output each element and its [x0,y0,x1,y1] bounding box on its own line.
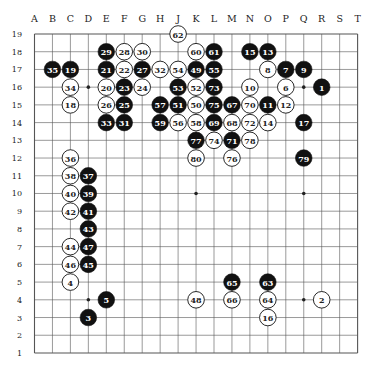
row-label: 2 [17,331,22,340]
row-label: 12 [12,154,22,163]
move-number: 3 [86,313,92,323]
white-stone: 60 [188,43,205,60]
move-number: 41 [83,207,94,217]
column-label: A [30,13,38,24]
move-number: 21 [101,65,112,75]
black-stone: 71 [224,132,241,149]
white-stone: 78 [242,132,259,149]
white-stone: 28 [116,43,133,60]
black-stone: 21 [98,61,115,78]
column-label: C [67,13,74,24]
move-number: 11 [262,100,273,110]
move-number: 49 [190,65,202,75]
move-number: 55 [208,65,219,75]
white-stone: 64 [260,292,277,309]
star-point [302,85,306,89]
move-number: 53 [173,83,185,93]
white-stone: 12 [278,97,295,114]
move-number: 13 [262,47,274,57]
column-label: D [85,13,93,24]
row-label: 11 [12,172,22,181]
white-stone: 16 [260,309,277,326]
white-stone: 8 [260,61,277,78]
column-label: F [121,13,128,24]
black-stone: 19 [62,61,79,78]
move-number: 50 [190,100,202,110]
move-number: 75 [208,100,219,110]
move-number: 31 [119,118,130,128]
move-number: 79 [298,154,310,164]
black-stone: 3 [80,309,97,326]
star-point [87,85,91,89]
move-number: 80 [190,154,202,164]
black-stone: 1 [313,79,330,96]
move-number: 32 [155,65,166,75]
star-point [302,192,306,196]
white-stone: 24 [134,79,151,96]
move-number: 70 [244,100,256,110]
move-number: 72 [244,118,255,128]
black-stone: 13 [260,43,277,60]
move-number: 47 [83,242,94,252]
white-stone: 46 [62,256,79,273]
black-stone: 69 [206,114,223,131]
white-stone: 42 [62,203,79,220]
move-number: 6 [283,83,289,93]
move-number: 20 [101,83,113,93]
move-number: 60 [190,47,202,57]
move-number: 22 [119,65,130,75]
white-stone: 4 [62,274,79,291]
move-number: 17 [298,118,309,128]
move-number: 18 [65,100,77,110]
column-label: L [211,13,218,24]
black-stone: 9 [295,61,312,78]
white-stone: 68 [224,114,241,131]
move-number: 56 [173,118,185,128]
move-number: 39 [83,189,95,199]
move-number: 25 [119,100,130,110]
white-stone: 76 [224,150,241,167]
move-number: 67 [226,100,237,110]
black-stone: 37 [80,167,97,184]
move-number: 8 [265,65,271,75]
white-stone: 62 [170,26,187,43]
black-stone: 29 [98,43,115,60]
black-stone: 15 [242,43,259,60]
white-stone: 22 [116,61,133,78]
column-label: G [138,13,146,24]
black-stone: 35 [44,61,61,78]
move-number: 23 [119,83,131,93]
white-stone: 30 [134,43,151,60]
white-stone: 36 [62,150,79,167]
black-stone: 41 [80,203,97,220]
star-point [194,192,198,196]
row-label: 17 [12,65,22,74]
black-stone: 77 [188,132,205,149]
move-number: 19 [65,65,77,75]
black-stone: 65 [224,274,241,291]
white-stone: 72 [242,114,259,131]
row-label: 6 [17,260,22,269]
move-number: 64 [262,295,274,305]
move-number: 44 [65,242,77,252]
black-stone: 55 [206,61,223,78]
white-stone: 20 [98,79,115,96]
black-stone: 73 [206,79,223,96]
row-label: 5 [17,278,22,287]
star-point [87,298,91,302]
move-number: 52 [190,83,201,93]
move-number: 71 [226,136,237,146]
column-label: M [227,13,237,24]
column-label: O [264,13,272,24]
move-number: 46 [65,260,77,270]
move-number: 2 [319,295,325,305]
move-number: 58 [190,118,202,128]
move-number: 68 [226,118,238,128]
white-stone: 18 [62,97,79,114]
row-label: 1 [17,349,22,358]
black-stone: 25 [116,97,133,114]
black-stone: 51 [170,97,187,114]
black-stone: 57 [152,97,169,114]
move-number: 77 [190,136,201,146]
move-number: 5 [104,295,110,305]
